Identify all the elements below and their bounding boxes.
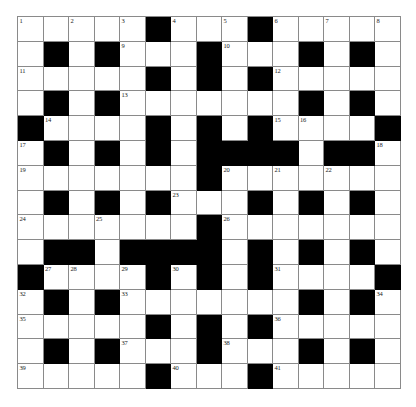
grid-cell[interactable] (324, 116, 350, 141)
grid-cell[interactable]: 4 (171, 17, 197, 42)
grid-cell[interactable] (146, 290, 172, 315)
grid-cell[interactable]: 2 (69, 17, 95, 42)
grid-cell[interactable]: 30 (171, 265, 197, 290)
grid-cell[interactable]: 16 (299, 116, 325, 141)
grid-cell[interactable] (69, 166, 95, 191)
grid-cell[interactable] (222, 290, 248, 315)
grid-cell[interactable] (299, 141, 325, 166)
grid-cell[interactable] (273, 290, 299, 315)
grid-cell[interactable] (171, 67, 197, 92)
grid-cell[interactable] (375, 191, 401, 216)
grid-cell[interactable] (18, 91, 44, 116)
grid-cell[interactable] (273, 339, 299, 364)
grid-cell[interactable] (44, 67, 70, 92)
grid-cell[interactable] (69, 215, 95, 240)
grid-cell[interactable] (120, 364, 146, 389)
grid-cell[interactable] (350, 265, 376, 290)
grid-cell[interactable] (95, 67, 121, 92)
grid-cell[interactable] (171, 116, 197, 141)
grid-cell[interactable] (222, 116, 248, 141)
grid-cell[interactable] (95, 315, 121, 340)
grid-cell[interactable]: 41 (273, 364, 299, 389)
grid-cell[interactable] (324, 240, 350, 265)
grid-cell[interactable] (120, 315, 146, 340)
grid-cell[interactable]: 40 (171, 364, 197, 389)
grid-cell[interactable] (69, 91, 95, 116)
grid-cell[interactable] (95, 364, 121, 389)
grid-cell[interactable]: 8 (375, 17, 401, 42)
grid-cell[interactable]: 33 (120, 290, 146, 315)
grid-cell[interactable] (222, 315, 248, 340)
grid-cell[interactable] (273, 215, 299, 240)
grid-cell[interactable] (375, 67, 401, 92)
grid-cell[interactable]: 18 (375, 141, 401, 166)
grid-cell[interactable]: 22 (324, 166, 350, 191)
grid-cell[interactable]: 39 (18, 364, 44, 389)
grid-cell[interactable] (375, 339, 401, 364)
grid-cell[interactable] (95, 116, 121, 141)
grid-cell[interactable] (350, 67, 376, 92)
grid-cell[interactable]: 10 (222, 42, 248, 67)
grid-cell[interactable] (69, 339, 95, 364)
grid-cell[interactable]: 5 (222, 17, 248, 42)
grid-cell[interactable] (222, 91, 248, 116)
grid-cell[interactable]: 35 (18, 315, 44, 340)
grid-cell[interactable] (69, 290, 95, 315)
grid-cell[interactable]: 38 (222, 339, 248, 364)
grid-cell[interactable] (171, 290, 197, 315)
grid-cell[interactable] (273, 240, 299, 265)
grid-cell[interactable] (248, 215, 274, 240)
grid-cell[interactable] (69, 191, 95, 216)
grid-cell[interactable] (197, 91, 223, 116)
grid-cell[interactable] (95, 166, 121, 191)
grid-cell[interactable]: 11 (18, 67, 44, 92)
grid-cell[interactable] (18, 240, 44, 265)
grid-cell[interactable] (44, 315, 70, 340)
grid-cell[interactable] (69, 141, 95, 166)
grid-cell[interactable] (350, 315, 376, 340)
grid-cell[interactable]: 9 (120, 42, 146, 67)
grid-cell[interactable]: 24 (18, 215, 44, 240)
grid-cell[interactable] (69, 315, 95, 340)
grid-cell[interactable] (171, 215, 197, 240)
grid-cell[interactable] (222, 191, 248, 216)
grid-cell[interactable] (171, 42, 197, 67)
grid-cell[interactable]: 17 (18, 141, 44, 166)
grid-cell[interactable] (171, 91, 197, 116)
grid-cell[interactable] (44, 17, 70, 42)
grid-cell[interactable]: 34 (375, 290, 401, 315)
grid-cell[interactable] (120, 116, 146, 141)
grid-cell[interactable] (69, 364, 95, 389)
grid-cell[interactable] (171, 141, 197, 166)
grid-cell[interactable]: 15 (273, 116, 299, 141)
grid-cell[interactable] (324, 91, 350, 116)
grid-cell[interactable] (95, 240, 121, 265)
grid-cell[interactable] (146, 42, 172, 67)
grid-cell[interactable] (273, 191, 299, 216)
grid-cell[interactable] (248, 91, 274, 116)
grid-cell[interactable] (120, 67, 146, 92)
grid-cell[interactable] (273, 42, 299, 67)
grid-cell[interactable]: 23 (171, 191, 197, 216)
grid-cell[interactable] (324, 191, 350, 216)
grid-cell[interactable]: 14 (44, 116, 70, 141)
grid-cell[interactable] (324, 315, 350, 340)
grid-cell[interactable] (299, 166, 325, 191)
grid-cell[interactable] (171, 339, 197, 364)
grid-cell[interactable] (375, 166, 401, 191)
grid-cell[interactable] (375, 215, 401, 240)
grid-cell[interactable] (95, 265, 121, 290)
grid-cell[interactable] (44, 166, 70, 191)
grid-cell[interactable] (350, 166, 376, 191)
grid-cell[interactable] (197, 17, 223, 42)
grid-cell[interactable]: 20 (222, 166, 248, 191)
grid-cell[interactable]: 27 (44, 265, 70, 290)
grid-cell[interactable] (350, 17, 376, 42)
grid-cell[interactable] (18, 339, 44, 364)
grid-cell[interactable] (350, 116, 376, 141)
grid-cell[interactable] (222, 67, 248, 92)
grid-cell[interactable] (375, 240, 401, 265)
grid-cell[interactable] (299, 215, 325, 240)
grid-cell[interactable]: 32 (18, 290, 44, 315)
grid-cell[interactable] (69, 42, 95, 67)
